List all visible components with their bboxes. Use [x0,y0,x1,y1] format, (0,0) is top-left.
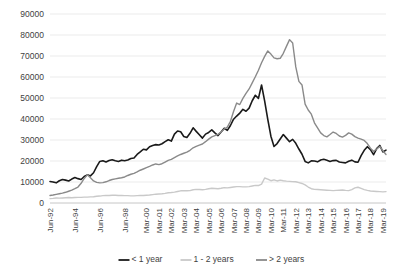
series-line-1-2-years [50,178,386,199]
x-axis-tick-label: Mar-01 [155,207,164,233]
y-axis-tick-label: 90000 [20,9,44,19]
x-axis-tick-label: Mar-14 [317,207,326,233]
chart-legend: < 1 year1 - 2 years> 2 years [119,254,305,264]
x-axis-tick-label: Mar-19 [379,207,388,233]
x-axis-tick-label: Mar-10 [267,207,276,233]
x-axis-tick-label: Mar-16 [342,207,351,233]
x-axis-tick-label: Mar-09 [254,207,263,233]
gridlines [50,14,386,203]
x-axis-tick-label: Mar-15 [329,207,338,233]
x-axis-tick-label: Mar-02 [167,207,176,233]
legend-label: < 1 year [132,254,163,264]
chart-canvas: 0100002000030000400005000060000700008000… [0,0,397,274]
y-axis-tick-label: 30000 [20,135,44,145]
x-axis-tick-label: Mar-07 [230,207,239,233]
x-axis-tick-label: Mar-04 [192,207,201,233]
line-chart: 0100002000030000400005000060000700008000… [0,0,397,274]
x-axis-tick-label: Mar-12 [292,207,301,233]
y-axis-tick-label: 60000 [20,72,44,82]
y-axis-tick-label: 70000 [20,51,44,61]
y-axis-tick-label: 50000 [20,93,44,103]
series-line--2-years [50,40,386,196]
y-axis-tick-labels: 0100002000030000400005000060000700008000… [20,9,44,208]
x-axis-tick-label: Mar-17 [354,207,363,233]
x-axis-tick-labels: Jun-92Jun-94Jun-96Jun-98Mar-00Mar-01Mar-… [46,207,388,233]
x-axis-tick-label: Mar-05 [205,207,214,233]
y-axis-tick-label: 20000 [20,156,44,166]
y-axis-tick-label: 10000 [20,177,44,187]
legend-label: > 2 years [269,254,304,264]
y-axis-tick-label: 80000 [20,30,44,40]
y-axis-tick-label: 40000 [20,114,44,124]
x-axis-tick-label: Jun-96 [96,207,105,232]
x-axis-tick-label: Mar-08 [242,207,251,233]
legend-label: 1 - 2 years [194,254,234,264]
x-axis-tick-label: Mar-03 [180,207,189,233]
x-axis-tick-label: Mar-06 [217,207,226,233]
y-axis-tick-label: 0 [39,198,44,208]
x-axis-tick-label: Jun-92 [46,207,55,232]
x-axis-tick-label: Mar-00 [142,207,151,233]
x-axis-tick-label: Jun-98 [121,207,130,232]
x-axis-tick-label: Jun-94 [71,207,80,232]
x-axis-tick-label: Mar-18 [366,207,375,233]
x-axis-tick-label: Mar-13 [304,207,313,233]
x-axis-tick-label: Mar-11 [279,207,288,232]
